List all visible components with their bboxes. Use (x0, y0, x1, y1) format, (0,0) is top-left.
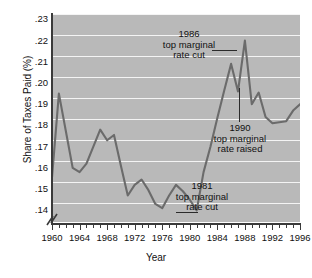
x-tick-major (80, 225, 81, 230)
leader-line-1990 (239, 88, 240, 122)
y-tick-label: .23 (22, 14, 48, 23)
x-tick-minor (169, 225, 170, 228)
x-axis-title: Year (0, 252, 312, 263)
annotation-line: 1986 (143, 29, 235, 40)
x-tick-minor (121, 225, 122, 228)
y-axis-line (51, 13, 53, 224)
x-tick-minor (66, 225, 67, 228)
x-tick-major (272, 225, 273, 230)
x-tick-minor (252, 225, 253, 228)
x-tick-minor (286, 225, 287, 228)
x-tick-minor (266, 225, 267, 228)
y-tick-label: .14 (22, 205, 48, 214)
x-tick-label: 1976 (147, 232, 177, 243)
x-tick-major (162, 225, 163, 230)
x-tick-label: 1964 (65, 232, 95, 243)
x-tick-label: 1960 (37, 232, 67, 243)
x-tick-label: 1972 (120, 232, 150, 243)
annotation-1986: 1986 top marginal rate cut (143, 29, 235, 61)
leader-line-1986 (212, 50, 237, 51)
x-tick-minor (73, 225, 74, 228)
x-tick-major (107, 225, 108, 230)
x-tick-minor (176, 225, 177, 228)
x-tick-label: 1984 (202, 232, 232, 243)
annotation-1990: 1990 top marginal rate raised (196, 123, 284, 155)
x-tick-minor (59, 225, 60, 228)
x-tick-minor (197, 225, 198, 228)
leader-line-1981 (176, 212, 198, 213)
x-tick-major (245, 225, 246, 230)
x-tick-minor (155, 225, 156, 228)
x-tick-label: 1992 (257, 232, 287, 243)
x-tick-label: 1968 (92, 232, 122, 243)
x-tick-minor (204, 225, 205, 228)
x-tick-label: 1996 (285, 232, 312, 243)
x-tick-label: 1980 (175, 232, 205, 243)
annotation-line: rate raised (196, 144, 284, 155)
annotation-line: rate cut (143, 50, 235, 61)
x-tick-minor (142, 225, 143, 228)
x-tick-minor (238, 225, 239, 228)
x-tick-minor (183, 225, 184, 228)
annotation-1981: 1981 top marginal rate cut (153, 181, 251, 213)
x-tick-minor (210, 225, 211, 228)
x-tick-major (135, 225, 136, 230)
x-tick-major (300, 225, 301, 230)
x-tick-minor (100, 225, 101, 228)
x-tick-minor (293, 225, 294, 228)
x-tick-minor (128, 225, 129, 228)
x-tick-major (190, 225, 191, 230)
x-tick-minor (259, 225, 260, 228)
x-tick-minor (224, 225, 225, 228)
annotation-line: 1981 (153, 181, 251, 192)
x-tick-minor (86, 225, 87, 228)
x-tick-minor (93, 225, 94, 228)
x-tick-minor (279, 225, 280, 228)
x-tick-minor (148, 225, 149, 228)
y-axis-title: Share of Taxes Paid (%) (22, 30, 33, 190)
x-tick-major (52, 225, 53, 230)
annotation-line: 1990 (196, 123, 284, 134)
x-tick-minor (231, 225, 232, 228)
x-tick-minor (114, 225, 115, 228)
x-tick-label: 1988 (230, 232, 260, 243)
chart-figure: .14.15.16.17.18.19.20.21.22.23 196019641… (0, 0, 312, 278)
x-tick-major (217, 225, 218, 230)
annotation-line: rate cut (153, 202, 251, 213)
